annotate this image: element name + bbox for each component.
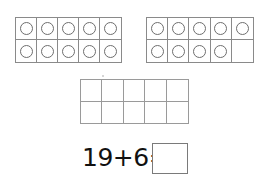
counter-circle-icon: [151, 45, 164, 58]
frame-cell: [232, 18, 253, 40]
frame-cell: [168, 40, 189, 62]
counter-circle-icon: [104, 22, 117, 35]
ten-frame-left: [15, 17, 122, 63]
frame-cell[interactable]: [81, 102, 102, 124]
answer-box[interactable]: [152, 143, 188, 174]
frame-cell: [37, 40, 58, 62]
frame-cell[interactable]: [167, 102, 188, 124]
counter-circle-icon: [62, 22, 75, 35]
counter-circle-icon: [62, 45, 75, 58]
ten-frame-empty[interactable]: [80, 79, 189, 124]
frame-cell: [58, 18, 79, 40]
frame-cell[interactable]: [102, 102, 123, 124]
counter-circle-icon: [83, 22, 96, 35]
counter-circle-icon: [193, 45, 206, 58]
frame-cell[interactable]: [167, 80, 188, 102]
frame-cell[interactable]: [81, 80, 102, 102]
frame-cell[interactable]: [124, 80, 145, 102]
frame-cell: [232, 40, 253, 62]
counter-circle-icon: [193, 22, 206, 35]
frame-cell: [211, 18, 232, 40]
frame-cell: [100, 18, 121, 40]
frame-cell[interactable]: [145, 102, 166, 124]
frame-cell: [189, 18, 210, 40]
frame-cell: [147, 40, 168, 62]
counter-circle-icon: [20, 22, 33, 35]
counter-circle-icon: [41, 45, 54, 58]
counter-circle-icon: [236, 22, 249, 35]
frame-cell: [189, 40, 210, 62]
counter-circle-icon: [214, 22, 227, 35]
frame-cell: [37, 18, 58, 40]
ten-frame-right: [146, 17, 254, 63]
counter-circle-icon: [41, 22, 54, 35]
frame-cell: [16, 40, 37, 62]
frame-cell: [16, 18, 37, 40]
frame-cell: [168, 18, 189, 40]
frame-cell: [79, 18, 100, 40]
counter-circle-icon: [104, 45, 117, 58]
frame-cell[interactable]: [102, 80, 123, 102]
frame-cell: [147, 18, 168, 40]
counter-circle-icon: [83, 45, 96, 58]
counter-circle-icon: [172, 45, 185, 58]
frame-cell[interactable]: [145, 80, 166, 102]
frame-cell: [211, 40, 232, 62]
frame-cell: [58, 40, 79, 62]
counter-circle-icon: [20, 45, 33, 58]
counter-circle-icon: [214, 45, 227, 58]
dot-mark: [102, 75, 104, 77]
frame-cell[interactable]: [124, 102, 145, 124]
frame-cell: [79, 40, 100, 62]
counter-circle-icon: [151, 22, 164, 35]
frame-cell: [100, 40, 121, 62]
counter-circle-icon: [172, 22, 185, 35]
